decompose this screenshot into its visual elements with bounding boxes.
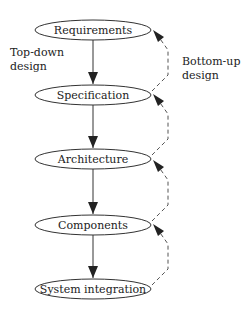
node-specification: Specification bbox=[35, 85, 151, 105]
annotation-line: Bottom-up bbox=[182, 55, 240, 69]
arrow-up-icon bbox=[153, 94, 164, 106]
node-components: Components bbox=[35, 215, 151, 235]
arrow-up-icon bbox=[153, 30, 164, 42]
arrow-up-icon bbox=[153, 224, 164, 236]
node-system-integration: System integration bbox=[35, 279, 151, 299]
node-label: Architecture bbox=[57, 153, 128, 166]
node-label: Specification bbox=[57, 89, 129, 102]
node-architecture: Architecture bbox=[35, 149, 151, 169]
node-label: System integration bbox=[40, 283, 146, 296]
annotation-line: design bbox=[182, 69, 240, 83]
bottom-up-annotation: Bottom-up design bbox=[182, 55, 240, 83]
annotation-line: design bbox=[10, 60, 64, 74]
arrow-down-icon bbox=[88, 136, 98, 148]
arrow-down-icon bbox=[88, 202, 98, 214]
node-label: Components bbox=[58, 219, 128, 232]
bottom-up-arrows bbox=[152, 36, 168, 285]
top-down-annotation: Top-down design bbox=[10, 46, 64, 74]
bottom-up-arrowheads bbox=[153, 30, 164, 236]
arrow-down-icon bbox=[88, 266, 98, 278]
arrow-up-icon bbox=[153, 160, 164, 172]
node-label: Requirements bbox=[54, 24, 133, 37]
node-requirements: Requirements bbox=[35, 20, 151, 40]
annotation-line: Top-down bbox=[10, 46, 64, 60]
arrow-down-icon bbox=[88, 72, 98, 84]
